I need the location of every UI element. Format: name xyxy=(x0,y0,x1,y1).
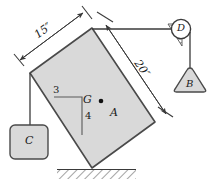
weight-b-label: B xyxy=(186,78,193,89)
block-a-label: A xyxy=(110,106,118,119)
ground-support xyxy=(57,170,136,180)
block-a-body xyxy=(30,28,155,168)
center-of-gravity-label: G xyxy=(83,93,92,106)
pulley-d-label: D xyxy=(177,22,185,33)
weight-c-label: C xyxy=(25,134,33,147)
slope-run-label-3: 3 xyxy=(53,84,59,95)
mechanics-figure: 15″ 20″ A G 3 4 D B C xyxy=(0,0,210,196)
center-of-gravity-dot xyxy=(99,99,104,104)
slope-rise-label-4: 4 xyxy=(85,110,91,121)
